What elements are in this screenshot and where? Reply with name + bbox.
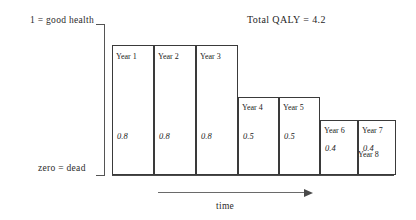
x-axis-baseline [112,175,394,176]
bar-year-1: Year 1 0.8 [112,45,154,175]
y-axis-bottom-label: zero = dead [38,163,86,173]
bar-year-5: Year 5 0.5 [279,97,320,175]
bar-value-year-6: 0.4 [325,143,336,153]
qaly-figure: 1 = good health zero = dead Total QALY =… [0,0,416,220]
bar-label-year-5: Year 5 [283,103,304,112]
y-axis [96,24,106,176]
arrow-shaft [158,192,306,193]
bar-label-year-3: Year 3 [200,52,221,61]
bar-year-7: Year 7 0.4 [358,120,396,175]
bar-label-year-2: Year 2 [158,52,179,61]
bar-year-4: Year 4 0.5 [238,97,279,175]
y-axis-top-label: 1 = good health [30,15,94,25]
bar-label-year-8: Year 8 [358,150,379,159]
y-axis-bottom-tick [96,175,105,176]
time-axis-arrow [158,188,314,198]
total-qaly-title: Total QALY = 4.2 [247,14,326,25]
bar-label-year-4: Year 4 [242,103,263,112]
bar-value-year-1: 0.8 [117,131,128,141]
right-arrow-icon [304,189,313,197]
bar-value-year-5: 0.5 [284,131,295,141]
bar-value-year-4: 0.5 [243,131,254,141]
bar-value-year-2: 0.8 [159,131,170,141]
bar-label-year-1: Year 1 [116,52,137,61]
y-axis-line [104,24,105,176]
bar-label-year-7: Year 7 [362,126,383,135]
bar-year-6: Year 6 0.4 [320,120,358,175]
bar-value-year-3: 0.8 [201,131,212,141]
bar-label-year-6: Year 6 [324,126,345,135]
bar-year-2: Year 2 0.8 [154,45,196,175]
bar-year-3: Year 3 0.8 [196,45,238,175]
x-axis-label: time [216,201,234,211]
